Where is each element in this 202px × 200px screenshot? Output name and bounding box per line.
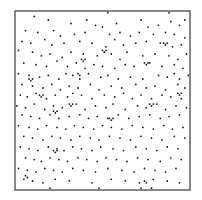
data-point — [109, 135, 111, 137]
data-point — [46, 66, 48, 68]
data-point — [23, 178, 25, 180]
data-point — [70, 105, 72, 107]
data-point — [26, 177, 28, 179]
data-point — [44, 109, 46, 111]
data-point — [159, 42, 161, 44]
data-point — [26, 96, 28, 98]
data-point — [26, 169, 28, 171]
data-point — [177, 148, 179, 150]
data-point — [186, 53, 188, 55]
data-point — [33, 103, 35, 105]
data-point — [39, 94, 41, 96]
data-point — [149, 114, 151, 116]
data-point — [105, 46, 107, 48]
data-point — [42, 94, 44, 96]
data-point — [184, 37, 186, 39]
data-point — [65, 128, 67, 130]
data-point — [75, 62, 77, 64]
data-point — [53, 110, 55, 112]
data-point — [123, 92, 125, 94]
data-point — [18, 125, 20, 127]
data-point — [56, 148, 58, 150]
data-point — [147, 159, 149, 161]
data-point — [151, 98, 153, 100]
data-point — [133, 66, 135, 68]
data-point — [184, 87, 186, 89]
data-point — [107, 75, 109, 77]
data-point — [98, 139, 100, 141]
data-point — [53, 150, 55, 152]
data-point — [56, 110, 58, 112]
data-point — [140, 135, 142, 137]
data-point — [182, 127, 184, 129]
data-point — [81, 94, 83, 96]
data-point — [67, 66, 69, 68]
data-point — [142, 78, 144, 80]
data-point — [140, 187, 142, 189]
data-point — [63, 42, 65, 44]
data-point — [102, 50, 104, 52]
data-point — [89, 137, 91, 139]
data-point — [81, 148, 83, 150]
data-point — [102, 66, 104, 68]
data-point — [161, 139, 163, 141]
data-point — [107, 12, 109, 14]
data-point — [135, 84, 137, 86]
data-point — [152, 33, 154, 35]
data-point — [177, 84, 179, 86]
data-point — [77, 157, 79, 159]
data-point — [102, 125, 104, 127]
data-point — [37, 150, 39, 152]
data-point — [154, 85, 156, 87]
data-point — [98, 89, 100, 91]
data-point — [172, 46, 174, 48]
data-point — [159, 161, 161, 163]
data-point — [79, 78, 81, 80]
data-point — [88, 73, 90, 75]
data-point — [112, 148, 114, 150]
data-point — [109, 118, 111, 120]
data-point — [88, 118, 90, 120]
data-point — [138, 116, 140, 118]
data-point — [149, 103, 151, 105]
data-point — [68, 103, 70, 105]
data-point — [46, 98, 48, 100]
data-point — [102, 26, 104, 28]
data-point — [54, 178, 56, 180]
data-point — [145, 64, 147, 66]
data-point — [123, 44, 125, 46]
data-point — [175, 168, 177, 170]
data-point — [49, 53, 51, 55]
data-point — [107, 118, 109, 120]
data-point — [179, 78, 181, 80]
data-point — [44, 168, 46, 170]
data-point — [65, 73, 67, 75]
data-point — [158, 24, 160, 26]
data-point — [30, 116, 32, 118]
data-point — [68, 180, 70, 182]
data-point — [121, 87, 123, 89]
data-point — [184, 19, 186, 21]
data-point — [184, 137, 186, 139]
data-point — [116, 159, 118, 161]
data-point — [182, 67, 184, 69]
data-point — [40, 55, 42, 57]
data-point — [21, 84, 23, 86]
data-point — [70, 139, 72, 141]
data-point — [67, 161, 69, 163]
data-point — [133, 171, 135, 173]
data-point — [47, 75, 49, 77]
data-point — [177, 58, 179, 60]
data-point — [116, 23, 118, 25]
data-point — [21, 41, 23, 43]
data-point — [152, 103, 154, 105]
data-point — [79, 41, 81, 43]
data-point — [61, 57, 63, 59]
data-point — [154, 169, 156, 171]
data-point — [53, 105, 55, 107]
data-point — [74, 125, 76, 127]
data-point — [35, 92, 37, 94]
data-point — [96, 161, 98, 163]
data-point — [60, 137, 62, 139]
data-point — [37, 128, 39, 130]
